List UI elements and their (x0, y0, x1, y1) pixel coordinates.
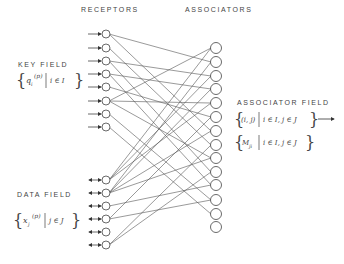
associator-field-label: ASSOCIATOR FIELD { (i, j) i ∈ I, j ∈ J }… (234, 99, 334, 152)
key-field-title: KEY FIELD (18, 61, 68, 68)
data-field-title: DATA FIELD (17, 191, 72, 198)
svg-text:(p): (p) (34, 72, 43, 80)
svg-text:i ∈ I: i ∈ I (50, 77, 65, 85)
svg-text:}: } (74, 71, 84, 90)
associator-node (211, 180, 222, 191)
associator-node (211, 153, 222, 164)
associator-node (211, 57, 222, 68)
key-receptor (88, 57, 110, 65)
associator-node (211, 126, 222, 137)
svg-text:}: } (71, 211, 81, 230)
key-receptor (88, 110, 110, 118)
key-receptor (88, 97, 110, 105)
associator-node (211, 209, 222, 220)
associator-node (211, 140, 222, 151)
connection-lines (109, 34, 211, 245)
key-receptor (88, 44, 110, 52)
data-receptors (89, 176, 110, 249)
data-receptor (89, 241, 110, 249)
associator-nodes (211, 43, 222, 233)
svg-text:{: { (13, 211, 23, 230)
data-receptor (89, 228, 110, 236)
receptors-title: RECEPTORS (81, 6, 139, 13)
key-receptor (88, 30, 110, 38)
associators-title: ASSOCIATORS (185, 6, 253, 13)
associator-node (211, 112, 222, 123)
associator-node (211, 98, 222, 109)
data-receptor (89, 189, 110, 197)
svg-text:(i, j): (i, j) (241, 116, 256, 124)
key-receptor (88, 83, 110, 91)
data-receptor (89, 202, 110, 210)
svg-text:{: { (16, 71, 26, 90)
key-receptor (88, 70, 110, 78)
associator-node (211, 84, 222, 95)
svg-text:i ∈ I, j ∈ J: i ∈ I, j ∈ J (263, 116, 298, 124)
associator-node (211, 167, 222, 178)
key-receptor (88, 123, 110, 131)
associator-node (211, 71, 222, 82)
data-field-label: DATA FIELD { x j (p) j ∈ J } (13, 191, 81, 230)
associative-memory-diagram: RECEPTORS ASSOCIATORS (0, 0, 344, 264)
svg-text:}: } (309, 110, 319, 129)
svg-text:i: i (31, 81, 33, 87)
svg-text:j: j (27, 221, 30, 228)
data-receptor (89, 176, 110, 184)
svg-text:i ∈ I, j ∈ J: i ∈ I, j ∈ J (263, 139, 298, 147)
associator-node (211, 222, 222, 233)
data-receptor (89, 215, 110, 223)
associator-node (211, 195, 222, 206)
associator-field-title: ASSOCIATOR FIELD (237, 99, 330, 106)
svg-text:(p): (p) (32, 212, 41, 220)
svg-text:ji: ji (248, 143, 253, 150)
svg-text:}: } (305, 133, 315, 152)
key-field-label: KEY FIELD { q i (p) i ∈ I } (16, 61, 84, 90)
key-receptors (88, 30, 110, 131)
associator-node (211, 43, 222, 54)
svg-text:j ∈ J: j ∈ J (47, 217, 65, 225)
